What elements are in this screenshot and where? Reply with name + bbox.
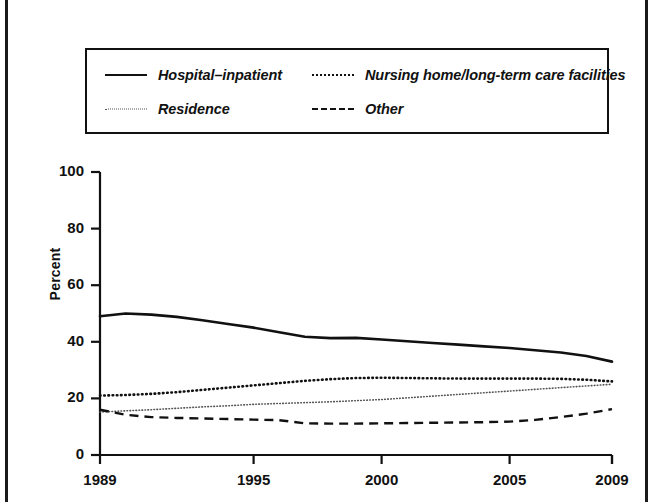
series-line: [100, 409, 612, 423]
plot-canvas: [0, 0, 656, 502]
axes: [91, 172, 612, 464]
line-chart: Percent 020406080100 1989199520002005200…: [0, 0, 656, 502]
figure-page: Hospital–inpatient Nursing home/long-ter…: [0, 0, 656, 502]
data-series-group: [100, 314, 612, 424]
series-line: [100, 378, 612, 396]
series-line: [100, 384, 612, 412]
series-line: [100, 314, 612, 362]
